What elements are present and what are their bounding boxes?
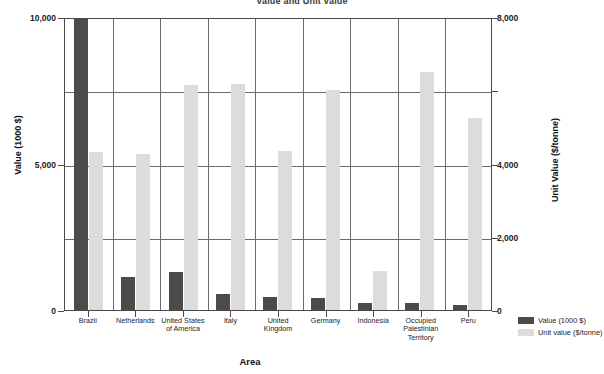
chart-container: Value and Unit value Value (1000 $) Unit… [0,0,604,374]
bar-value [263,297,277,310]
y-axis-title-right: Unit Value ($/tonne) [550,110,560,210]
bar-group [349,19,396,310]
y-tick-label-left: 10,000 [4,13,56,23]
y-tick-mark-right [492,91,498,92]
y-tick-mark-left [58,311,64,312]
x-tick-mark [468,311,469,317]
y-tick-label-right: 2,000 [497,233,537,243]
y-tick-mark-right [492,238,498,239]
x-tick-mark [326,311,327,317]
bar-unit-value [184,85,198,310]
bar-unit-value [373,271,387,310]
bar-group [207,19,254,310]
bar-value [121,277,135,310]
x-tick-label: United Kingdom [254,317,302,342]
bar-value [358,303,372,310]
bar-group [254,19,301,310]
bar-group [112,19,159,310]
bar-unit-value [468,118,482,310]
x-tick-label: Indonesia [349,317,397,342]
bar-group [396,19,443,310]
legend-label: Unit value ($/tonne) [538,328,603,337]
bar-value [405,303,419,310]
plot-area [64,18,492,311]
bar-group [65,19,112,310]
x-tick-mark [183,311,184,317]
x-tick-mark [230,311,231,317]
x-tick-label: Netherlands [112,317,160,342]
legend-item[interactable]: Value (1000 $) [518,316,603,325]
legend-swatch [518,317,534,324]
x-tick-mark [278,311,279,317]
bar-unit-value [278,151,292,310]
bar-unit-value [89,152,103,310]
bar-unit-value [136,154,150,310]
y-tick-label-right: 8,000 [497,13,537,23]
chart-legend: Value (1000 $)Unit value ($/tonne) [518,316,603,340]
bar-group [444,19,491,310]
bar-value [216,294,230,310]
x-tick-mark [135,311,136,317]
y-tick-mark-right [492,165,498,166]
bar-unit-value [420,72,434,310]
bar-group [302,19,349,310]
bar-group [160,19,207,310]
y-tick-label-left: 5,000 [4,160,56,170]
y-tick-mark-right [492,311,498,312]
x-axis-categories: BrazilNetherlandsUnited States of Americ… [64,317,492,342]
legend-swatch [518,329,534,336]
x-tick-label: United States of America [159,317,207,342]
y-tick-mark-right [492,18,498,19]
bar-value [169,272,183,310]
y-tick-label-right: 0 [497,306,537,316]
legend-item[interactable]: Unit value ($/tonne) [518,328,603,337]
bar-value [453,305,467,310]
x-tick-label: Peru [445,317,493,342]
y-tick-label-right: 4,000 [497,160,537,170]
bar-unit-value [231,84,245,310]
chart-title: Value and Unit value [0,0,604,5]
x-tick-mark [421,311,422,317]
x-tick-label: Occupied Palestinian Territory [397,317,445,342]
bar-value [311,298,325,310]
bar-unit-value [326,90,340,310]
y-tick-label-left: 0 [4,306,56,316]
y-axis-title-left: Value (1000 $) [13,105,23,185]
legend-label: Value (1000 $) [538,316,586,325]
x-tick-mark [373,311,374,317]
x-tick-label: Brazil [64,317,112,342]
bar-value [74,18,88,310]
x-tick-label: Italy [207,317,255,342]
x-tick-label: Germany [302,317,350,342]
bar-groups [65,19,491,310]
x-axis-title: Area [0,356,500,367]
x-tick-mark [88,311,89,317]
